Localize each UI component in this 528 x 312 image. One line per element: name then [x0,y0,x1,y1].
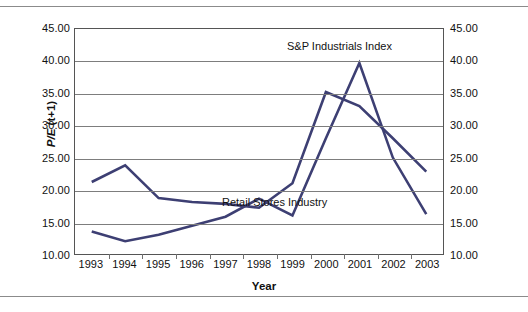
y-axis-title: P/E (t+1) [45,79,57,169]
y-axis-title-italic: P/E [45,129,57,148]
x-axis-tick-label: 2000 [314,258,338,270]
x-axis-tick-label: 1999 [280,258,304,270]
x-axis-tick-label: 2002 [381,258,405,270]
y-axis-tick-label-right: 10.00 [450,249,478,261]
y-axis-tick-label-right: 15.00 [450,217,478,229]
y-axis-tick-label-right: 25.00 [450,152,478,164]
y-axis-tick-label-left: 10.00 [42,249,70,261]
x-axis-tick-label: 1997 [213,258,237,270]
gridline [75,159,443,160]
x-axis-tick-label: 1993 [79,258,103,270]
y-axis-tick-label-left: 45.00 [42,22,70,34]
x-axis-tick-label: 1994 [112,258,136,270]
gridline [75,61,443,62]
x-axis-tick-label: 1998 [247,258,271,270]
y-axis-tick-label-right: 45.00 [450,22,478,34]
y-axis-tick-label-right: 30.00 [450,119,478,131]
y-axis-tick-label-right: 35.00 [450,87,478,99]
top-divider-rule [0,6,528,7]
chart-figure: 10.0015.0020.0025.0030.0035.0040.0045.00… [0,0,528,312]
series-line [92,63,427,241]
gridline [75,94,443,95]
y-axis-tick-label-right: 20.00 [450,184,478,196]
x-axis-tick-label: 1996 [179,258,203,270]
y-axis-tick-label-left: 15.00 [42,217,70,229]
bottom-divider-rule [0,296,528,297]
x-axis-tick-label: 2003 [415,258,439,270]
x-axis-labels: 1993199419951996199719981999200020012002… [74,258,444,274]
series-lines [75,29,443,254]
y-axis-tick-label-right: 40.00 [450,54,478,66]
y-axis-left-labels: 10.0015.0020.0025.0030.0035.0040.0045.00 [0,28,70,255]
plot-area [74,28,444,255]
annotation-sp-industrials: S&P Industrials Index [287,40,392,52]
gridline [75,224,443,225]
x-axis-tick-label: 2001 [348,258,372,270]
gridline [75,126,443,127]
y-axis-title-suffix: (t+1) [45,101,57,129]
x-axis-title: Year [0,280,528,292]
y-axis-tick-label-left: 40.00 [42,54,70,66]
x-axis-tick-label: 1995 [146,258,170,270]
y-axis-tick-label-left: 20.00 [42,184,70,196]
gridline [75,191,443,192]
annotation-retail-stores: Retail Stores Industry [222,196,327,208]
y-axis-right-labels: 10.0015.0020.0025.0030.0035.0040.0045.00 [450,28,528,255]
